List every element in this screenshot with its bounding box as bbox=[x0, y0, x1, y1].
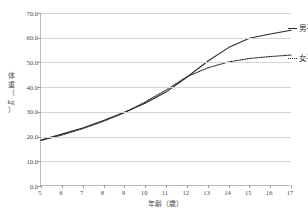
legend-item-girls: 女子 bbox=[288, 54, 308, 63]
gridline-horizontal bbox=[41, 38, 291, 39]
y-axis-tickmark bbox=[38, 87, 41, 88]
legend-item-boys: 男子 bbox=[288, 24, 308, 33]
x-axis-tickmark bbox=[41, 185, 42, 188]
x-axis-tick-label: 10 bbox=[134, 189, 154, 197]
legend-label-girls: 女子 bbox=[299, 54, 308, 63]
weight-by-age-line-chart: 体 重 （ kg ） 0.010.020.030.040.050.060.070… bbox=[0, 0, 308, 221]
y-axis-tick-labels: 0.010.020.030.040.050.060.070.0 bbox=[14, 0, 38, 221]
x-axis-tickmark bbox=[270, 185, 271, 188]
gridline-horizontal bbox=[41, 62, 291, 63]
gridline-horizontal bbox=[41, 137, 291, 138]
x-axis-tick-label: 12 bbox=[176, 189, 196, 197]
x-axis-tick-label: 11 bbox=[155, 189, 175, 197]
x-axis-tickmark bbox=[104, 185, 105, 188]
series-line-girls bbox=[41, 55, 291, 141]
x-axis-tick-label: 15 bbox=[238, 189, 258, 197]
y-axis-tickmark bbox=[38, 13, 41, 14]
y-axis-tickmark bbox=[38, 62, 41, 63]
x-axis-tick-label: 8 bbox=[93, 189, 113, 197]
y-axis-tick-label: 20.0 bbox=[16, 133, 38, 140]
plot-area bbox=[40, 13, 290, 186]
x-axis-tick-label: 14 bbox=[218, 189, 238, 197]
x-axis-tickmark bbox=[229, 185, 230, 188]
x-axis-tick-label: 6 bbox=[51, 189, 71, 197]
x-axis-tick-label: 7 bbox=[72, 189, 92, 197]
x-axis-tickmark bbox=[145, 185, 146, 188]
x-axis-tick-label: 9 bbox=[113, 189, 133, 197]
y-axis-tickmark bbox=[38, 161, 41, 162]
x-axis-tickmark bbox=[208, 185, 209, 188]
y-axis-tick-label: 10.0 bbox=[16, 158, 38, 165]
gridline-horizontal bbox=[41, 13, 291, 14]
y-axis-tick-label: 40.0 bbox=[16, 84, 38, 91]
x-axis-tick-label: 16 bbox=[259, 189, 279, 197]
legend-line-swatch-solid-icon bbox=[288, 28, 297, 29]
y-axis-tick-label: 50.0 bbox=[16, 59, 38, 66]
x-axis-tickmark bbox=[166, 185, 167, 188]
x-axis-tickmark bbox=[291, 185, 292, 188]
gridline-horizontal bbox=[41, 161, 291, 162]
y-axis-tickmark bbox=[38, 38, 41, 39]
y-axis-tickmark bbox=[38, 137, 41, 138]
x-axis-tickmark bbox=[249, 185, 250, 188]
gridline-horizontal bbox=[41, 87, 291, 88]
y-axis-tick-label: 30.0 bbox=[16, 108, 38, 115]
x-axis-tick-label: 17 bbox=[280, 189, 300, 197]
x-axis-tickmark bbox=[124, 185, 125, 188]
y-axis-tick-label: 70.0 bbox=[16, 10, 38, 17]
legend-label-boys: 男子 bbox=[299, 24, 308, 33]
gridline-horizontal bbox=[41, 112, 291, 113]
legend-line-swatch-dotted-icon bbox=[288, 58, 297, 59]
x-axis-tick-label: 13 bbox=[197, 189, 217, 197]
x-axis-tickmark bbox=[62, 185, 63, 188]
x-axis-title: 年齢（歳） bbox=[40, 200, 290, 209]
x-axis-tick-label: 5 bbox=[30, 189, 50, 197]
y-axis-tick-label: 60.0 bbox=[16, 34, 38, 41]
x-axis-tickmark bbox=[187, 185, 188, 188]
series-layer bbox=[41, 13, 291, 186]
y-axis-tickmark bbox=[38, 112, 41, 113]
series-line-boys bbox=[41, 30, 291, 140]
x-axis-tickmark bbox=[83, 185, 84, 188]
